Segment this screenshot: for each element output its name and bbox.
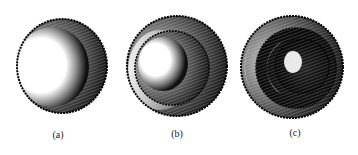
panel-a-label: (a) (52, 129, 63, 141)
panel-c (241, 16, 343, 118)
panel-c-inner-streaks (275, 39, 329, 93)
panel-b (127, 16, 227, 116)
panel-c-label: (c) (289, 127, 300, 139)
panel-a (15, 19, 107, 113)
panel-c-core-highlight (284, 51, 302, 73)
panel-b-label: (b) (171, 128, 183, 140)
panel-a-bright-interior (15, 27, 89, 107)
panel-b-bright-interior (138, 37, 188, 91)
figure-canvas: (a) (b) (c) (0, 0, 358, 155)
